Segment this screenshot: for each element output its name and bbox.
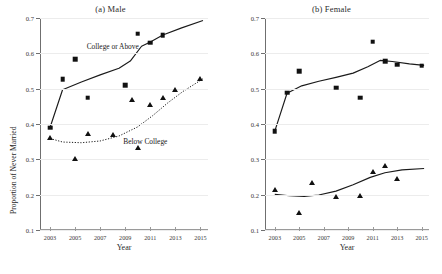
- data-point-square: [85, 96, 90, 101]
- y-tick: [36, 195, 40, 196]
- x-tick: [175, 227, 176, 231]
- data-point-triangle: [333, 194, 339, 199]
- gridline: [40, 18, 208, 19]
- data-point-triangle: [85, 131, 91, 136]
- y-tick: [36, 18, 40, 19]
- y-tick-label: 0.4: [251, 121, 259, 128]
- x-tick-label: 2007: [318, 234, 330, 241]
- x-axis-title-male: Year: [117, 243, 132, 252]
- y-tick-label: 0.3: [251, 156, 259, 163]
- x-tick-label: 2007: [94, 234, 106, 241]
- data-point-triangle: [309, 180, 315, 185]
- y-tick: [261, 53, 265, 54]
- data-point-square: [383, 59, 388, 64]
- data-point-square: [161, 33, 166, 38]
- plot-area-male: Year 0.10.20.30.40.50.60.720032005200720…: [40, 18, 208, 230]
- fit-line-below-college: [275, 169, 424, 197]
- gridline: [40, 195, 208, 196]
- data-point-triangle: [47, 135, 53, 140]
- x-tick: [299, 227, 300, 231]
- data-point-triangle: [382, 163, 388, 168]
- panel-female: (b) Female Year 0.10.20.30.40.50.60.7200…: [221, 0, 442, 274]
- x-tick-label: 2003: [269, 234, 281, 241]
- gridline: [40, 124, 208, 125]
- x-tick-label: 2005: [69, 234, 81, 241]
- data-point-triangle: [72, 156, 78, 161]
- y-tick: [261, 195, 265, 196]
- y-tick-label: 0.3: [26, 156, 34, 163]
- panel-title-male: (a) Male: [0, 4, 221, 14]
- y-tick-label: 0.1: [26, 227, 34, 234]
- y-tick-label: 0.2: [251, 191, 259, 198]
- data-point-square: [123, 83, 128, 88]
- data-point-triangle: [129, 97, 135, 102]
- series-annotation: College or Above: [87, 41, 139, 50]
- data-point-triangle: [110, 132, 116, 137]
- data-point-square: [419, 63, 424, 68]
- x-tick-label: 2009: [119, 234, 131, 241]
- x-tick: [150, 227, 151, 231]
- x-tick: [397, 227, 398, 231]
- data-point-square: [358, 95, 363, 100]
- gridline: [265, 124, 429, 125]
- x-tick: [125, 227, 126, 231]
- y-tick: [261, 89, 265, 90]
- data-point-square: [297, 69, 302, 74]
- plot-area-female: Year 0.10.20.30.40.50.60.720032005200720…: [265, 18, 429, 230]
- panel-title-female: (b) Female: [221, 4, 442, 14]
- y-tick-label: 0.7: [251, 15, 259, 22]
- y-tick-label: 0.7: [26, 15, 34, 22]
- x-tick: [200, 227, 201, 231]
- y-tick-label: 0.5: [26, 85, 34, 92]
- y-tick: [36, 53, 40, 54]
- y-axis-title-male: Proportion of Never Married: [9, 126, 18, 214]
- x-tick: [75, 227, 76, 231]
- gridline: [40, 159, 208, 160]
- x-tick: [275, 227, 276, 231]
- x-tick-label: 2003: [44, 234, 56, 241]
- x-tick: [100, 227, 101, 231]
- data-point-triangle: [272, 187, 278, 192]
- data-point-triangle: [197, 76, 203, 81]
- data-point-square: [334, 85, 339, 90]
- y-tick-label: 0.6: [251, 50, 259, 57]
- data-point-square: [370, 39, 375, 44]
- gridline: [265, 195, 429, 196]
- x-tick-label: 2015: [415, 234, 427, 241]
- y-tick: [36, 124, 40, 125]
- y-tick-label: 0.2: [26, 191, 34, 198]
- y-tick: [36, 89, 40, 90]
- data-point-square: [48, 125, 53, 130]
- x-axis-title-female: Year: [340, 243, 355, 252]
- panel-male: (a) Male Year 0.10.20.30.40.50.60.720032…: [0, 0, 221, 274]
- gridline: [265, 89, 429, 90]
- x-tick: [324, 227, 325, 231]
- x-tick-label: 2011: [367, 234, 379, 241]
- y-tick-label: 0.4: [26, 121, 34, 128]
- series-annotation: Below College: [123, 136, 167, 145]
- gridline: [265, 230, 429, 231]
- data-point-triangle: [370, 169, 376, 174]
- x-tick-label: 2005: [293, 234, 305, 241]
- y-tick: [36, 230, 40, 231]
- x-tick-label: 2013: [169, 234, 181, 241]
- x-tick-label: 2011: [144, 234, 156, 241]
- y-tick: [261, 124, 265, 125]
- data-point-triangle: [394, 176, 400, 181]
- data-point-square: [60, 77, 65, 82]
- x-tick-label: 2015: [194, 234, 206, 241]
- fit-line-college-or-above: [50, 20, 203, 127]
- gridline: [265, 159, 429, 160]
- x-tick-label: 2013: [391, 234, 403, 241]
- data-point-triangle: [357, 193, 363, 198]
- gridline: [265, 53, 429, 54]
- x-tick: [422, 227, 423, 231]
- data-point-square: [285, 90, 290, 95]
- data-point-triangle: [147, 102, 153, 107]
- y-tick-label: 0.5: [251, 85, 259, 92]
- data-point-square: [135, 31, 140, 36]
- data-point-square: [395, 62, 400, 67]
- gridline: [265, 18, 429, 19]
- data-point-triangle: [296, 210, 302, 215]
- y-tick: [261, 159, 265, 160]
